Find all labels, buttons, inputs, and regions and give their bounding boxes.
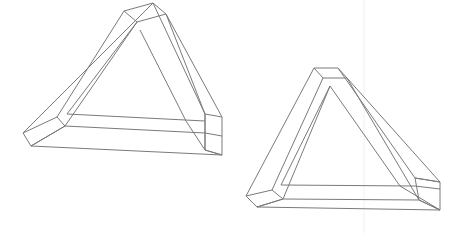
right-penrose-triangle-outer-bottom xyxy=(257,207,440,210)
right-penrose-triangle-inner-left-rail xyxy=(283,86,330,199)
right-penrose-triangle-right-end-cap xyxy=(415,178,440,210)
left-penrose-triangle-apex-cap xyxy=(124,3,166,22)
right-penrose-triangle-bottom-beam-top xyxy=(283,199,419,200)
left-penrose-triangle-inner-triangle-left xyxy=(67,22,137,114)
right-penrose-triangle-inner-triangle-left xyxy=(281,86,330,185)
right-penrose-triangle-right-inner-rail xyxy=(347,78,419,200)
left-penrose-triangle-right-inner-rail xyxy=(140,30,186,121)
right-penrose-triangle-bottom-inner-rail xyxy=(281,185,415,186)
left-penrose-triangle-inner-left-rail xyxy=(65,22,137,126)
left-penrose-triangle-outer-right-upper xyxy=(166,14,222,117)
figures-layer xyxy=(23,3,440,210)
right-penrose-triangle xyxy=(246,68,440,210)
left-penrose-triangle xyxy=(23,3,222,155)
right-penrose-triangle-right-beam-inner xyxy=(330,86,400,186)
left-penrose-triangle-outer-bottom xyxy=(31,146,222,155)
left-penrose-triangle-bottom-face-lower-right xyxy=(186,121,205,150)
right-penrose-triangle-right-beam-outer xyxy=(338,68,415,178)
drawing-canvas xyxy=(0,0,462,233)
left-penrose-triangle-right-beam-outer xyxy=(166,14,205,114)
penrose-triangle-svg xyxy=(0,0,462,233)
right-penrose-triangle-outer-left-upper xyxy=(246,68,314,196)
left-penrose-triangle-right-beam-inner xyxy=(153,3,205,114)
left-penrose-triangle-bottom-left-cap xyxy=(23,117,65,146)
left-penrose-triangle-left-beam-inner xyxy=(57,11,124,117)
left-penrose-triangle-bottom-beam-top xyxy=(65,126,205,133)
right-penrose-triangle-left-beam-inner xyxy=(272,78,323,190)
